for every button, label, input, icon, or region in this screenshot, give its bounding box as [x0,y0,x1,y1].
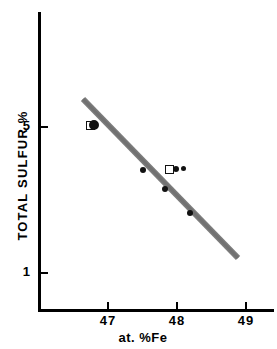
data-point-marker-dot-4 [162,186,168,192]
y-axis-title: TOTAL SULFUR % [15,91,30,261]
trend-line-svg [0,0,277,349]
x-tick-label-48: 48 [160,314,194,328]
x-axis-title: at. %Fe [88,330,198,345]
data-point-marker-dot-2 [140,167,146,173]
x-tick-label-47: 47 [91,314,125,328]
x-tick-48 [176,302,178,310]
data-point-marker-dot-3 [173,166,179,172]
data-point-marker-dot-5 [187,210,193,216]
y-tick-1 [41,272,48,274]
x-tick-49 [245,302,247,310]
y-tick-label-1: 1 [16,265,30,278]
x-tick-47 [107,302,109,310]
chart-container: 5 1 47 48 49 TOTAL SULFUR % at. %Fe [0,0,277,349]
x-tick-label-49: 49 [229,314,263,328]
x-axis-line [38,309,274,312]
trend-line-shade [83,99,238,258]
trend-line [83,99,238,258]
y-tick-5 [41,126,48,128]
data-point-marker-ring-1 [89,120,99,130]
y-axis-line [38,12,41,312]
data-point-marker-dot-3b [181,166,186,171]
